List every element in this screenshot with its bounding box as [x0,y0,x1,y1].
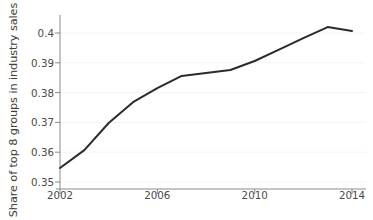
line-chart: Share of top 8 groups in industry sales … [0,0,373,220]
x-tick-label: 2010 [242,190,268,200]
axis-lines [56,15,366,189]
x-axis-tick-labels: 2002 2006 2010 2014 [0,190,373,210]
plot-area [0,0,373,220]
gridlines [60,33,366,182]
x-tick-label: 2002 [47,190,73,200]
y-axis-ticks [55,33,60,182]
x-tick-label: 2014 [339,190,365,200]
data-line-series [60,27,352,168]
x-tick-label: 2006 [144,190,170,200]
